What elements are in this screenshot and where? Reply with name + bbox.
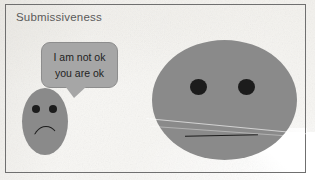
large-face-neutral-mouth <box>185 134 258 137</box>
large-face-right-eye <box>238 79 255 95</box>
speech-bubble-tail <box>65 86 87 98</box>
panel-title: Submissiveness <box>16 11 102 23</box>
speech-bubble-line-1: I am not ok <box>54 51 106 63</box>
small-face-frown-mouth <box>32 126 60 144</box>
small-face-right-eye <box>49 105 57 113</box>
speech-bubble-line-2: you are ok <box>55 67 104 79</box>
cartoon-panel-scene: Submissiveness I am not ok you are ok <box>0 0 315 180</box>
large-face <box>152 40 297 160</box>
small-face <box>22 88 68 155</box>
speech-bubble: I am not ok you are ok <box>41 42 118 88</box>
speech-bubble-text: I am not ok you are ok <box>41 42 118 88</box>
small-face-left-eye <box>32 105 40 113</box>
large-face-left-eye <box>190 79 207 95</box>
